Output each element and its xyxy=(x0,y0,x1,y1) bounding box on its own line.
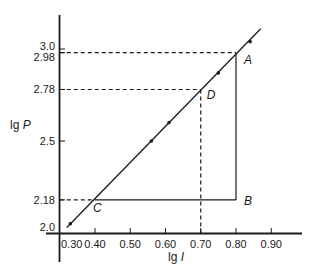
x-ticks: 0.300.400.500.600.700.800.90 xyxy=(61,228,282,250)
data-point xyxy=(150,139,154,143)
fit-line xyxy=(67,29,261,228)
y-tick-label: 2.78 xyxy=(34,83,55,95)
data-point xyxy=(69,222,73,226)
point-label-a: A xyxy=(243,53,252,67)
x-tick-label: 0.30 xyxy=(61,238,82,250)
x-tick-label: 0.50 xyxy=(120,238,141,250)
x-tick-label: 0.80 xyxy=(225,238,246,250)
y-tick-label: 2.18 xyxy=(34,194,55,206)
y-tick-label: 3.0 xyxy=(40,40,55,52)
x-tick-label: 0.90 xyxy=(261,238,282,250)
axes xyxy=(46,15,302,262)
point-label-c: C xyxy=(93,201,102,215)
data-point xyxy=(167,121,171,125)
x-axis-title: lg I xyxy=(168,250,185,264)
y-tick-label: 2.0 xyxy=(40,221,55,233)
x-tick-label: 0.60 xyxy=(155,238,176,250)
point-label-d: D xyxy=(207,88,216,102)
data-point xyxy=(217,71,221,75)
data-point xyxy=(248,40,252,44)
x-tick-label: 0.70 xyxy=(190,238,211,250)
regression-line xyxy=(67,29,261,228)
point-labels: ABCD xyxy=(93,53,252,215)
y-tick-label: 2.5 xyxy=(40,135,55,147)
y-tick-label: 2.98 xyxy=(34,51,55,63)
guide-lines xyxy=(60,53,236,233)
point-label-b: B xyxy=(244,194,252,208)
chart: 0.300.400.500.600.700.800.90 2.02.182.52… xyxy=(0,0,315,278)
x-tick-label: 0.40 xyxy=(84,238,105,250)
y-axis-title: lg P xyxy=(10,118,31,132)
